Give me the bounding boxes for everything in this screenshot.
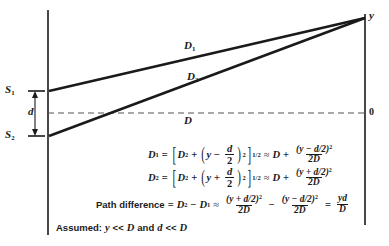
bracket-close-icon: ] [247,166,251,189]
paren-close-icon: ) [238,144,242,165]
equation-path-difference: Path difference = D2 − D1 ≈ (y + d/2)2 2… [96,194,351,216]
paren-close-icon: ) [238,167,242,188]
slit-2-label: S2 [5,129,15,142]
bracket-open-icon: [ [172,166,176,189]
screen-origin-label: 0 [369,107,374,117]
ray-d2-label: D2 [187,71,198,84]
paren-open-icon: ( [202,144,206,165]
slit-separation-label: d [28,106,34,117]
baseline-distance-label: D [184,115,192,126]
ray-d2-line [49,18,365,136]
ray-d1-line [49,18,365,91]
equation-d1: D1 = [ D2 + ( y − d 2 )2 ]1/2 ≈ D + (y −… [148,143,336,166]
slit-1-label: S1 [5,84,15,97]
bracket-close-icon: ] [247,143,251,166]
figure-canvas: S1 S2 d D D1 D2 y 0 D1 = [ D2 + ( y − d … [0,0,389,246]
screen-point-y-label: y [369,10,374,21]
assumption-line: Assumed: y << D and d << D [56,222,187,233]
bracket-open-icon: [ [172,143,176,166]
paren-open-icon: ( [202,167,206,188]
equation-d2: D2 = [ D2 + ( y + d 2 )2 ]1/2 ≈ D + (y +… [148,166,336,189]
ray-d1-label: D1 [184,40,195,53]
